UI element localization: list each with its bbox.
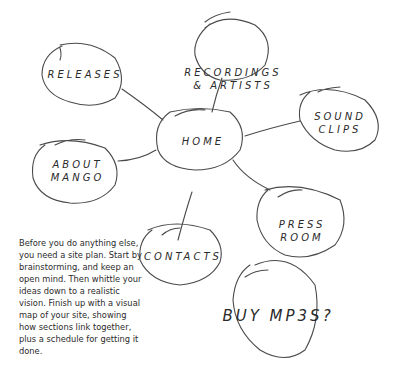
edge-home-press [233, 160, 270, 190]
node-press-room[interactable]: PRESS ROOM [262, 218, 342, 244]
node-releases[interactable]: RELEASES [40, 68, 130, 81]
edge-home-contacts [178, 192, 192, 240]
node-sound-clips[interactable]: SOUND CLIPS [290, 110, 390, 136]
caption-text: Before you do anything else, you need a … [19, 237, 144, 357]
edge-home-releases [122, 89, 163, 120]
node-contacts[interactable]: CONTACTS [138, 250, 228, 263]
node-recordings-artists[interactable]: RECORDINGS & ARTISTS [178, 66, 288, 92]
node-buy-mp3s[interactable]: BUY MP3S? [218, 310, 338, 323]
node-home[interactable]: HOME [168, 135, 238, 148]
edge-home-about [118, 150, 156, 161]
node-about-mango[interactable]: ABOUT MANGO [40, 158, 115, 184]
